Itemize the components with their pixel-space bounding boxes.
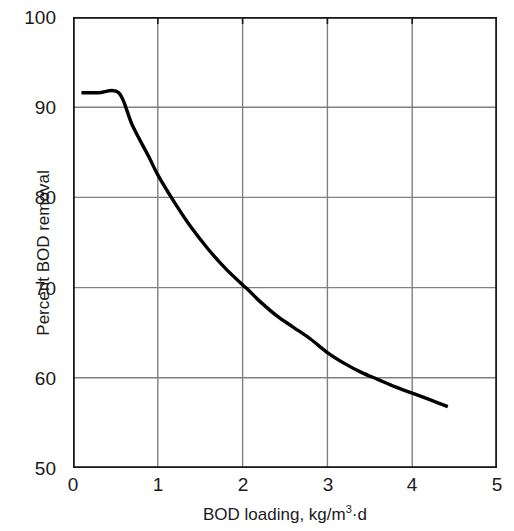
bod-removal-chart: Percent BOD removal 100 90 80 70 60 50 0… <box>0 0 514 531</box>
y-axis-title: Percent BOD removal <box>34 123 54 383</box>
plot-svg <box>73 17 497 468</box>
x-axis-title-base: BOD loading, kg/m <box>203 505 346 524</box>
x-tick-label: 2 <box>223 475 263 494</box>
data-series-line <box>81 90 447 406</box>
y-tick-label: 50 <box>10 459 56 478</box>
x-tick-label: 0 <box>53 475 93 494</box>
x-axis-title-tail: ·d <box>352 505 367 524</box>
y-tick-label: 60 <box>10 369 56 388</box>
x-tick-label: 3 <box>308 475 348 494</box>
plot-area <box>73 17 497 468</box>
y-tick-label: 80 <box>10 188 56 207</box>
y-tick-label: 90 <box>10 98 56 117</box>
x-tick-label: 1 <box>138 475 178 494</box>
x-axis-title: BOD loading, kg/m3·d <box>73 505 497 525</box>
y-tick-label: 70 <box>10 279 56 298</box>
x-tick-label: 5 <box>477 475 514 494</box>
x-tick-label: 4 <box>392 475 432 494</box>
y-tick-label: 100 <box>10 8 56 27</box>
